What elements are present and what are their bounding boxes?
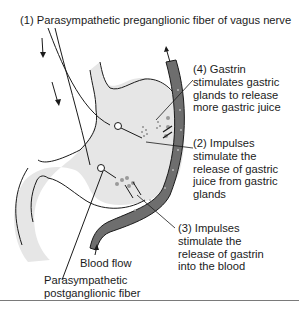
- label-preganglionic-fiber: (1) Parasympathetic preganglionic fiber …: [20, 14, 291, 27]
- label-blood-flow: Blood flow: [80, 257, 132, 270]
- bottom-divider: [0, 300, 299, 301]
- label-postganglionic-fiber: Parasympathetic postganglionic fiber: [44, 274, 140, 300]
- label-impulses-gastric-juice: (2) Impulses stimulate the release of ga…: [193, 137, 278, 201]
- label-gastrin-stimulates: (4) Gastrin stimulates gastric glands to…: [193, 63, 281, 114]
- label-impulses-gastrin: (3) Impulses stimulate the release of ga…: [178, 222, 264, 273]
- gastric-phase-diagram: (1) Parasympathetic preganglionic fiber …: [0, 0, 299, 315]
